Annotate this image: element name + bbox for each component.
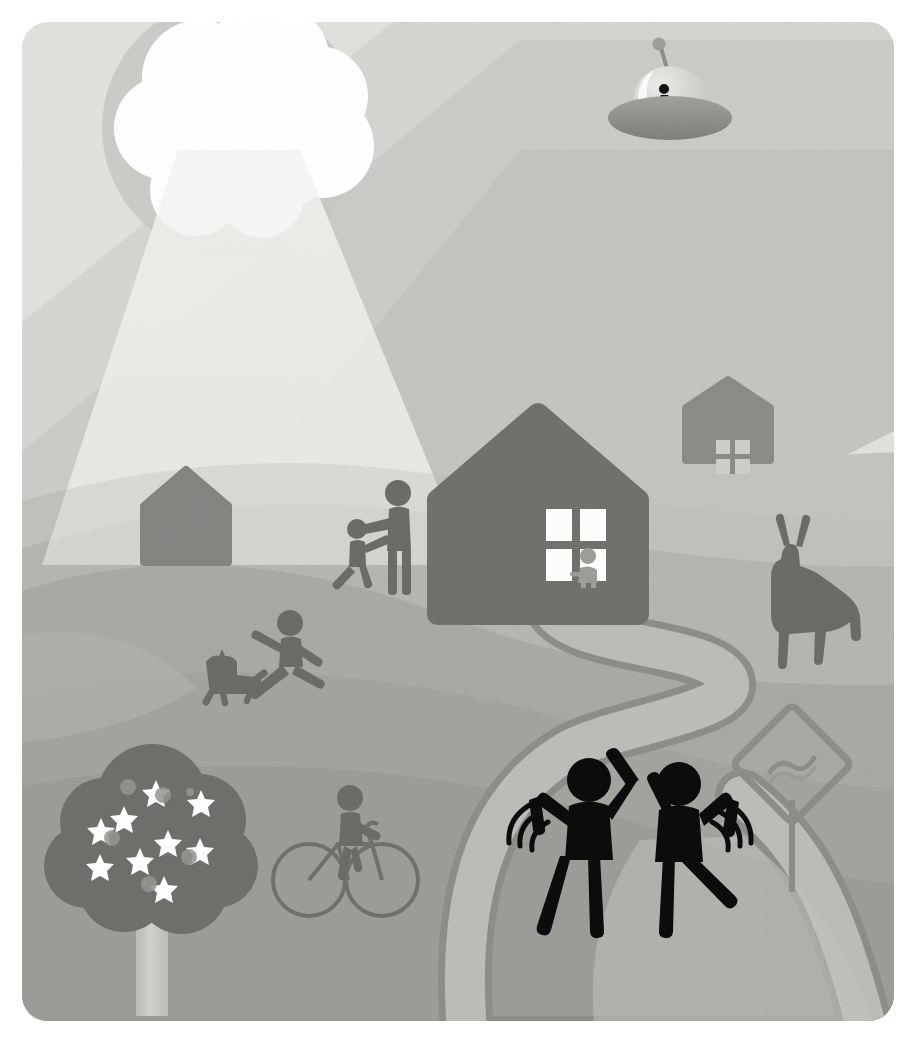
neighborhood-scene-illustration (0, 0, 916, 1043)
paper-grain-overlay (0, 0, 916, 1043)
illustration-canvas: Neighborhood Scene Illustration Grayscal… (0, 0, 916, 1043)
